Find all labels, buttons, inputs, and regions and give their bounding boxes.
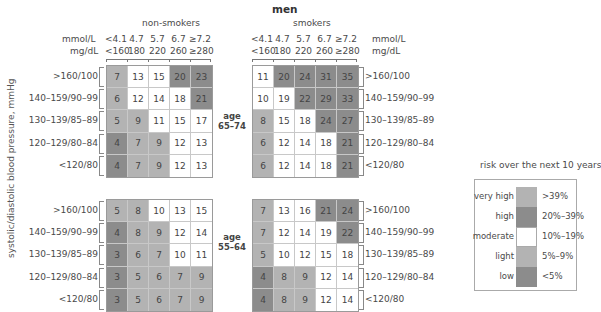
tick: 5.7 <box>147 34 168 44</box>
bracket-left <box>99 67 104 87</box>
group-label-non-smokers: non-smokers <box>142 18 200 28</box>
bracket-left <box>99 134 104 154</box>
risk-cell: 13 <box>274 200 295 222</box>
tick: <160 <box>251 46 272 56</box>
bracket-left <box>99 201 104 221</box>
chart-title: men <box>272 3 298 15</box>
risk-cell: 12 <box>274 133 295 155</box>
risk-cell: 8 <box>128 222 149 244</box>
bracket-right <box>359 134 364 154</box>
tick: <4.1 <box>251 34 272 44</box>
risk-cell: 10 <box>274 244 295 266</box>
bp-row-label: >160/100 <box>0 205 98 215</box>
tick: 220 <box>147 46 168 56</box>
legend-swatch <box>516 247 537 267</box>
bp-row-label: 140–159/90–99 <box>365 227 434 237</box>
risk-cell: 22 <box>295 88 316 110</box>
risk-cell: 16 <box>295 200 316 222</box>
tick: ≥7.2 <box>189 34 210 44</box>
grid-65-74-smokers: 1120243135101922293381518242761214182161… <box>252 65 359 178</box>
bracket-right <box>359 89 364 109</box>
bp-row-label: <120/80 <box>0 160 98 170</box>
legend-swatch <box>516 187 537 207</box>
risk-cell: 12 <box>170 222 191 244</box>
grid-55-64-smokers: 7131621247121419225101215184891214489121… <box>252 199 359 312</box>
bracket-left <box>99 223 104 243</box>
risk-cell: 21 <box>337 133 358 155</box>
bp-row-label: >160/100 <box>0 71 98 81</box>
risk-cell: 14 <box>337 289 358 311</box>
legend-item-light: light 5%–9% <box>475 247 578 267</box>
risk-cell: 7 <box>170 289 191 311</box>
risk-cell: 12 <box>316 267 337 289</box>
risk-cell: 9 <box>191 267 212 289</box>
tick: 6.7 <box>314 34 335 44</box>
bracket-right <box>359 290 364 310</box>
tick: <4.1 <box>105 34 126 44</box>
bracket-right <box>359 156 364 176</box>
grid-65-74-non-smokers: 7131520236121418215911151747912134791213 <box>106 65 213 178</box>
bp-row-label: <120/80 <box>0 294 98 304</box>
risk-cell: 18 <box>337 244 358 266</box>
bp-row-label: <120/80 <box>365 294 404 304</box>
tick: 180 <box>272 46 293 56</box>
bp-row-label: <120/80 <box>365 160 404 170</box>
risk-cell: 6 <box>253 155 274 177</box>
risk-cell: 12 <box>316 289 337 311</box>
tick: <160 <box>105 46 126 56</box>
risk-cell: 8 <box>128 200 149 222</box>
risk-cell: 5 <box>128 289 149 311</box>
risk-cell: 21 <box>191 88 212 110</box>
risk-cell: 19 <box>274 88 295 110</box>
legend-swatch <box>516 227 537 247</box>
risk-cell: 12 <box>170 133 191 155</box>
risk-cell: 4 <box>107 222 128 244</box>
risk-cell: 11 <box>191 244 212 266</box>
tick: ≥280 <box>335 46 356 56</box>
unit-mmol-right: mmol/L <box>372 34 406 44</box>
age-label-65-74: age 65–74 <box>214 111 250 131</box>
bp-row-label: 120–129/80–84 <box>0 138 98 148</box>
risk-cell: 4 <box>253 267 274 289</box>
risk-cell: 7 <box>170 267 191 289</box>
risk-cell: 10 <box>253 88 274 110</box>
risk-cell: 14 <box>191 222 212 244</box>
risk-cell: 5 <box>128 267 149 289</box>
risk-cell: 7 <box>253 222 274 244</box>
risk-cell: 7 <box>107 66 128 88</box>
risk-cell: 9 <box>295 267 316 289</box>
bracket-left <box>99 290 104 310</box>
risk-cell: 20 <box>170 66 191 88</box>
risk-cell: 9 <box>149 222 170 244</box>
risk-cell: 24 <box>316 110 337 132</box>
bracket-right <box>359 223 364 243</box>
bracket-right <box>359 268 364 288</box>
risk-cell: 14 <box>295 155 316 177</box>
legend-item-high: high 20%–39% <box>475 207 578 227</box>
bp-row-label: 130–139/85–89 <box>365 115 434 125</box>
risk-cell: 15 <box>149 66 170 88</box>
risk-cell: 13 <box>128 66 149 88</box>
tick: 4.7 <box>126 34 147 44</box>
risk-cell: 6 <box>149 267 170 289</box>
legend-item-moderate: moderate 10%–19% <box>475 227 578 247</box>
risk-cell: 7 <box>253 200 274 222</box>
tick: 260 <box>168 46 189 56</box>
risk-cell: 12 <box>128 88 149 110</box>
risk-cell: 3 <box>107 244 128 266</box>
legend-item-low: low <5% <box>475 267 578 287</box>
legend: very high >39% high 20%–39% moderate 10%… <box>474 179 577 291</box>
tick: 4.7 <box>272 34 293 44</box>
risk-cell: 13 <box>191 133 212 155</box>
risk-cell: 10 <box>170 244 191 266</box>
risk-cell: 14 <box>295 222 316 244</box>
risk-cell: 4 <box>253 289 274 311</box>
risk-cell: 18 <box>170 88 191 110</box>
bracket-right <box>359 201 364 221</box>
risk-cell: 3 <box>107 267 128 289</box>
risk-cell: 4 <box>107 155 128 177</box>
risk-cell: 23 <box>191 66 212 88</box>
risk-cell: 9 <box>295 289 316 311</box>
risk-cell: 15 <box>170 110 191 132</box>
risk-cell: 19 <box>316 222 337 244</box>
